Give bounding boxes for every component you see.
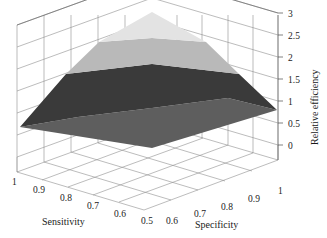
wall-top-left	[17, 0, 152, 25]
x-tick-label: 0.5	[141, 216, 153, 226]
wall-top-right	[152, 0, 278, 13]
y-tick-label: 0.8	[221, 202, 233, 212]
z-axis	[278, 13, 283, 160]
z-tick-label: 1.5	[288, 75, 300, 85]
z-tick-label: 2	[288, 53, 293, 63]
x-tick-label: 0.8	[60, 193, 72, 203]
z-tick-label: 1	[288, 97, 293, 107]
x-tick-label: 0.9	[33, 185, 45, 195]
y-axis-title: Specificity	[195, 219, 238, 230]
x-tick-label: 1	[12, 177, 17, 187]
z-tick-label: 2.5	[288, 31, 300, 41]
x-tick-label: 0.7	[87, 201, 99, 211]
plot-canvas: 3 2.5 2 1.5 1 0.5 0 1 0.9 0.8 0.7 0.6 0.…	[0, 0, 327, 238]
z-tick-label: 0.5	[288, 119, 300, 129]
y-tick-label: 0.9	[248, 194, 260, 204]
y-tick-label: 0.6	[166, 216, 178, 226]
y-tick-label: 0.7	[194, 209, 206, 219]
z-axis-title: Relative efficiency	[309, 69, 320, 145]
x-axis-title: Sensitivity	[42, 216, 85, 227]
z-tick-label: 3	[288, 9, 293, 19]
surface-plot-figure: 3 2.5 2 1.5 1 0.5 0 1 0.9 0.8 0.7 0.6 0.…	[0, 0, 327, 238]
z-tick-labels: 3 2.5 2 1.5 1 0.5 0	[288, 9, 300, 151]
surface-band-4	[99, 12, 206, 42]
y-tick-label: 1	[278, 186, 283, 196]
x-tick-label: 0.6	[114, 209, 126, 219]
z-tick-label: 0	[288, 141, 293, 151]
surface-3d	[20, 12, 277, 148]
